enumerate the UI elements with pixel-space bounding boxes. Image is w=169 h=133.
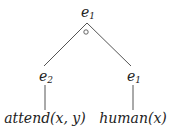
left-child-subscript: 2 [47, 75, 53, 85]
composition-operator-icon [84, 30, 88, 34]
root-node-subscript: 1 [89, 11, 95, 21]
right-child-node: e1 [127, 69, 141, 85]
edge-root-right [87, 23, 131, 66]
left-child-node: e2 [39, 69, 53, 85]
root-node: e1 [81, 5, 95, 21]
edge-root-left [44, 23, 87, 66]
left-leaf-label: attend(x, y) [4, 111, 86, 125]
right-child-subscript: 1 [135, 75, 141, 85]
right-leaf-label: human(x) [99, 111, 167, 125]
